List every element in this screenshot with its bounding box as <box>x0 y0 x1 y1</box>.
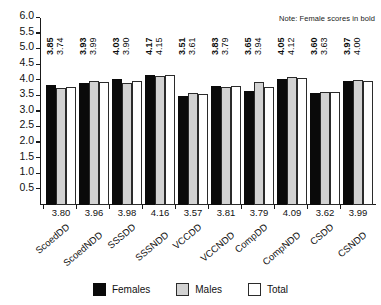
y-tick-label: 6.0 <box>19 10 34 21</box>
y-tick-label: 2.5 <box>19 119 34 130</box>
legend-label: Total <box>267 284 288 295</box>
value-label-females: 4.05 <box>277 37 286 55</box>
value-label-males: 4.00 <box>353 37 362 55</box>
bar-total <box>264 87 274 205</box>
y-tick: 1.5 <box>36 157 40 158</box>
category-label: VCCDD <box>159 222 204 262</box>
bar-total <box>165 75 175 205</box>
legend-item-females[interactable]: Females <box>93 283 150 296</box>
bar-males <box>221 87 231 205</box>
y-tick-label: 4.5 <box>19 57 34 68</box>
bar-males <box>353 80 363 205</box>
category-label-row: ScoedDDScoedNDDSSSDDSSSNDDVCCDDVCCNDDCom… <box>40 222 376 272</box>
bar-total <box>231 86 241 205</box>
bar-males <box>56 88 66 205</box>
bar-females <box>46 85 56 205</box>
bar-males <box>122 83 132 205</box>
bar-females <box>277 79 287 205</box>
value-label-males: 3.74 <box>56 37 65 55</box>
value-label-males: 3.61 <box>188 37 197 55</box>
bar-total <box>363 81 373 205</box>
total-value: 4.16 <box>146 207 174 219</box>
legend-label: Females <box>112 284 150 295</box>
bar-males <box>320 92 330 205</box>
legend-swatch-males-icon <box>176 283 189 296</box>
value-label-females: 3.97 <box>343 37 352 55</box>
y-tick: 4.0 <box>36 79 40 80</box>
y-tick-label: 3.0 <box>19 104 34 115</box>
bar-males <box>287 77 297 205</box>
total-value: 3.57 <box>179 207 207 219</box>
total-value-row: 3.803.963.984.163.573.813.794.093.623.99 <box>40 207 376 221</box>
chart-legend: FemalesMalesTotal <box>0 278 381 300</box>
bar-females <box>211 86 221 205</box>
y-tick: 1.0 <box>36 173 40 174</box>
bar-females <box>310 93 320 205</box>
value-label-females: 3.93 <box>79 37 88 55</box>
total-value: 4.09 <box>278 207 306 219</box>
value-label-males: 3.99 <box>89 37 98 55</box>
bar-males <box>254 82 264 205</box>
bar-total <box>198 94 208 205</box>
y-tick: 2.5 <box>36 126 40 127</box>
y-tick: 2.0 <box>36 141 40 142</box>
y-tick: 5.5 <box>36 32 40 33</box>
total-value: 3.99 <box>344 207 372 219</box>
value-label-females: 4.03 <box>112 37 121 55</box>
legend-swatch-females-icon <box>93 283 106 296</box>
bar-total <box>99 82 109 205</box>
value-label-females: 3.60 <box>310 37 319 55</box>
legend-item-total[interactable]: Total <box>248 283 288 296</box>
bar-total <box>132 81 142 205</box>
total-value: 3.62 <box>311 207 339 219</box>
bar-chart: Note: Female scores in bold 0.51.01.52.0… <box>0 0 381 305</box>
bar-total <box>330 92 340 205</box>
total-value: 3.98 <box>113 207 141 219</box>
bar-males <box>188 93 198 206</box>
bar-total <box>297 78 307 205</box>
value-label-females: 4.17 <box>145 37 154 55</box>
legend-swatch-total-icon <box>248 283 261 296</box>
bar-females <box>145 75 155 205</box>
value-label-females: 3.85 <box>46 37 55 55</box>
legend-label: Males <box>195 284 222 295</box>
value-label-males: 4.12 <box>287 37 296 55</box>
y-axis-line <box>40 18 41 205</box>
y-tick-label: 1.0 <box>19 166 34 177</box>
total-value: 3.80 <box>47 207 75 219</box>
y-tick-label: 1.5 <box>19 151 34 162</box>
value-label-males: 3.79 <box>221 37 230 55</box>
y-tick: 6.0 <box>36 17 40 18</box>
category-label: SSSDD <box>93 222 138 262</box>
bar-females <box>112 79 122 205</box>
bar-females <box>178 96 188 205</box>
y-tick-label: 0.5 <box>19 182 34 193</box>
value-label-females: 3.51 <box>178 37 187 55</box>
value-label-females: 3.65 <box>244 37 253 55</box>
bar-total <box>66 87 76 205</box>
y-tick: 0.5 <box>36 188 40 189</box>
value-label-males: 3.63 <box>320 37 329 55</box>
bar-females <box>343 81 353 205</box>
category-label: CSNDD <box>324 230 369 270</box>
y-tick-label: 5.0 <box>19 41 34 52</box>
total-value: 3.81 <box>212 207 240 219</box>
plot-area: 0.51.01.52.02.53.03.54.04.55.05.56.0 3.8… <box>40 18 376 205</box>
bar-males <box>155 76 165 205</box>
total-value: 3.79 <box>245 207 273 219</box>
bar-males <box>89 81 99 205</box>
y-tick: 3.5 <box>36 95 40 96</box>
bar-females <box>244 91 254 205</box>
y-tick-label: 2.0 <box>19 135 34 146</box>
y-tick-label: 5.5 <box>19 26 34 37</box>
bar-females <box>79 83 89 205</box>
y-tick: 4.5 <box>36 64 40 65</box>
value-label-males: 3.90 <box>122 37 131 55</box>
legend-item-males[interactable]: Males <box>176 283 222 296</box>
y-tick: 3.0 <box>36 110 40 111</box>
category-label: CSDD <box>291 222 336 262</box>
value-label-males: 3.94 <box>254 37 263 55</box>
y-tick-label: 3.5 <box>19 88 34 99</box>
value-label-males: 4.15 <box>155 37 164 55</box>
total-value: 3.96 <box>80 207 108 219</box>
